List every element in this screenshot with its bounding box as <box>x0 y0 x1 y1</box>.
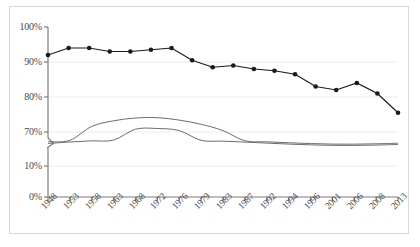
y-axis-tick-label: 100% <box>8 21 42 32</box>
y-axis-tick-label: 70% <box>8 126 42 137</box>
y-axis-tick-label: 90% <box>8 56 42 67</box>
y-axis-tick-label: 0% <box>8 191 42 202</box>
y-axis-tick-label: 10% <box>8 160 42 171</box>
chart-screenshot: 100%90%80%70%10%0% 194819531958196319681… <box>0 0 420 247</box>
y-axis-tick-label: 80% <box>8 91 42 102</box>
